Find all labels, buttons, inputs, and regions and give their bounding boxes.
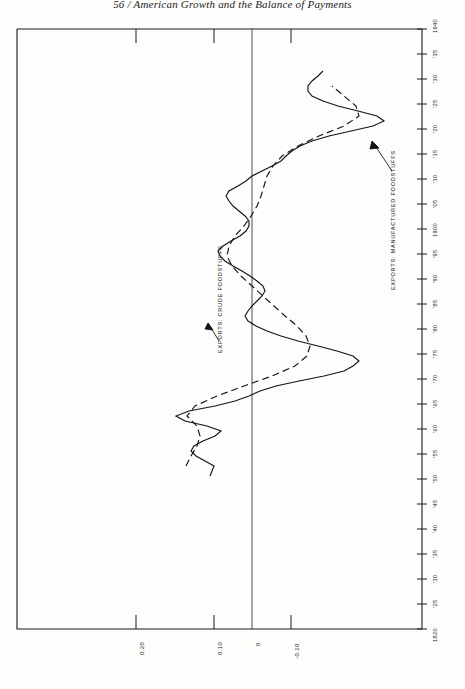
year-tick-label-1905: '05 <box>432 200 438 208</box>
value-tick-marks <box>136 29 291 629</box>
value-tick-label-010: 0.10 <box>217 642 223 655</box>
chart-figure: 1940 '35 '30 '25 '20 '15 '10 '05 1900 '9… <box>14 23 435 653</box>
annotation-leader-manufactured <box>370 141 392 171</box>
year-tick-label-1845: '45 <box>432 500 438 508</box>
year-tick-label-1880: '80 <box>432 325 438 333</box>
year-tick-label-1840: '40 <box>432 525 438 533</box>
year-tick-label-1820: 1820 <box>432 628 438 642</box>
running-head: 56 / American Growth and the Balance of … <box>0 0 465 10</box>
year-tick-label-1915: '15 <box>432 150 438 158</box>
year-tick-label-1860: '60 <box>432 425 438 433</box>
year-tick-label-1895: '95 <box>432 250 438 258</box>
year-tick-label-1885: '85 <box>432 300 438 308</box>
value-tick-label-0: 0 <box>255 642 261 646</box>
year-tick-label-1870: '70 <box>432 375 438 383</box>
year-tick-label-1910: '10 <box>432 175 438 183</box>
year-tick-label-1900: 1900 <box>432 223 438 237</box>
year-tick-label-1855: '55 <box>432 450 438 458</box>
annotation-exports-manufactured-foodstuffs: EXPORTS: MANUFACTURED FOODSTUFFS <box>390 150 396 290</box>
year-tick-label-1875: '75 <box>432 350 438 358</box>
year-tick-label-1825: '25 <box>432 600 438 608</box>
year-tick-label-1835: '35 <box>432 550 438 558</box>
year-tick-label-1925: '25 <box>432 100 438 108</box>
year-tick-label-1850: '50 <box>432 475 438 483</box>
year-tick-label-1930: '30 <box>432 75 438 83</box>
series-manufactured-foodstuffs <box>186 86 359 466</box>
year-tick-label-1865: '65 <box>432 400 438 408</box>
value-tick-label-n010: -0.10 <box>294 643 300 659</box>
year-tick-label-1940: 1940 <box>432 19 438 33</box>
year-tick-label-1920: '20 <box>432 125 438 133</box>
year-tick-label-1935: '35 <box>432 50 438 58</box>
figure-page: 56 / American Growth and the Balance of … <box>0 0 465 689</box>
year-tick-label-1830: '30 <box>432 575 438 583</box>
chart-axes-layer <box>14 23 435 653</box>
value-tick-label-020: 0.20 <box>139 642 145 655</box>
series-crude-foodstuffs <box>176 71 384 476</box>
annotation-exports-crude-foodstuffs: EXPORTS: CRUDE FOODSTUFFS <box>217 245 223 353</box>
year-tick-label-1890: '90 <box>432 275 438 283</box>
